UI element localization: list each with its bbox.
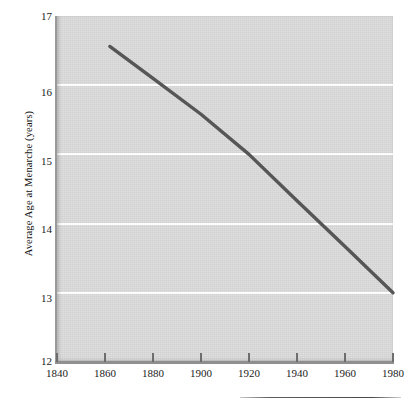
y-axis-line [55, 16, 57, 363]
footer-rule [240, 397, 401, 398]
x-tick-label-1860: 1860 [82, 368, 128, 379]
chart-figure: 17 16 15 14 13 12 1840186018801900192019… [0, 0, 417, 411]
x-tick-1840 [56, 353, 58, 362]
x-tick-1960 [344, 353, 346, 362]
y-tick-label-17: 17 [30, 11, 52, 22]
x-tick-1980 [392, 353, 394, 362]
gridline-13 [57, 292, 393, 294]
gridline-14 [57, 223, 393, 225]
paper-texture-overlay [57, 16, 393, 362]
y-axis-title: Average Age at Menarche (years) [23, 84, 34, 284]
x-tick-label-1980: 1980 [370, 368, 416, 379]
gridline-15 [57, 153, 393, 155]
x-tick-label-1920: 1920 [226, 368, 272, 379]
x-tick-1900 [200, 353, 202, 362]
y-tick-label-13: 13 [30, 293, 52, 304]
x-tick-label-1940: 1940 [274, 368, 320, 379]
x-tick-1920 [248, 353, 250, 362]
y-tick-label-12: 12 [30, 356, 52, 367]
x-tick-label-1960: 1960 [322, 368, 368, 379]
x-tick-1940 [296, 353, 298, 362]
plot-area-background [57, 16, 393, 362]
gridline-16 [57, 84, 393, 86]
x-tick-label-1880: 1880 [130, 368, 176, 379]
x-tick-label-1840: 1840 [34, 368, 80, 379]
x-tick-1880 [152, 353, 154, 362]
x-tick-label-1900: 1900 [178, 368, 224, 379]
x-tick-1860 [104, 353, 106, 362]
